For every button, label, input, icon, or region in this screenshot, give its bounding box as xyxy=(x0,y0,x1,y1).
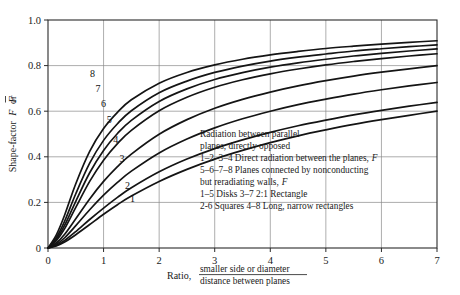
curve-label-1: 1 xyxy=(130,193,135,204)
legend-line-2: planes, directly opposed xyxy=(200,141,290,151)
x-tick-label-7: 7 xyxy=(434,255,439,266)
x-tick-label-6: 6 xyxy=(379,255,384,266)
legend-line-1: Radiation between parallel xyxy=(200,129,300,139)
curve-label-5: 5 xyxy=(107,114,112,125)
x-axis-title-numerator: smaller side or diameter xyxy=(200,264,290,274)
legend-line-3-text: 1–2–3–4 Direct radiation between the pla… xyxy=(200,153,369,163)
legend-line-6: 1–5 Disks 3–7 2:1 Rectangle xyxy=(200,189,307,199)
x-axis-title: Ratio, smaller side or diameter distance… xyxy=(167,264,307,286)
curve-label-6: 6 xyxy=(101,98,106,109)
y-axis-ticks xyxy=(44,20,48,248)
curve-label-3: 3 xyxy=(119,153,124,164)
svg-text:Shape-factor F: Shape-factor F or xyxy=(7,95,18,172)
y-tick-label-0: 0 xyxy=(36,243,41,254)
legend-line-5: but reradiating walls,F xyxy=(200,177,288,187)
x-axis-title-prefix: Ratio, xyxy=(167,270,191,281)
y-tick-label-0.6: 0.6 xyxy=(28,106,41,117)
y-axis-tick-labels: 00.20.40.60.81.0 xyxy=(28,15,42,254)
x-axis-title-denominator: distance between planes xyxy=(200,276,290,286)
y-tick-label-0.8: 0.8 xyxy=(28,60,41,71)
legend-symbol-f-direct: F xyxy=(371,153,378,163)
x-tick-label-1: 1 xyxy=(101,255,106,266)
curve-label-8: 8 xyxy=(90,68,95,79)
x-axis-ticks xyxy=(48,248,437,252)
legend-line-5-text: but reradiating walls, xyxy=(200,177,279,187)
x-tick-label-2: 2 xyxy=(157,255,162,266)
y-tick-label-0.4: 0.4 xyxy=(28,151,42,162)
y-tick-label-1.0: 1.0 xyxy=(28,15,41,26)
figure-container: 01234567 00.20.40.60.81.0 12345678 Ratio… xyxy=(0,0,460,295)
curve-label-2: 2 xyxy=(125,180,130,191)
legend-line-7: 2-6 Squares 4–8 Long, narrow rectangles xyxy=(200,201,354,211)
y-axis-title-text: Shape-factor xyxy=(7,121,18,173)
legend-symbol-f-bar: F xyxy=(281,177,288,187)
y-axis-symbol-fbar: F xyxy=(7,96,18,104)
legend-line-4: 5–6–7–8 Planes connected by nonconductin… xyxy=(200,165,369,175)
x-tick-label-0: 0 xyxy=(45,255,50,266)
y-axis-symbol-f: F xyxy=(7,109,18,117)
curve-label-7: 7 xyxy=(96,83,101,94)
shape-factor-chart: 01234567 00.20.40.60.81.0 12345678 Ratio… xyxy=(0,0,460,295)
y-tick-label-0.2: 0.2 xyxy=(28,197,41,208)
x-tick-label-5: 5 xyxy=(323,255,328,266)
curve-label-4: 4 xyxy=(113,134,118,145)
legend-line-3: 1–2–3–4 Direct radiation between the pla… xyxy=(200,153,378,163)
y-axis-title: Shape-factor F or F xyxy=(6,95,19,172)
